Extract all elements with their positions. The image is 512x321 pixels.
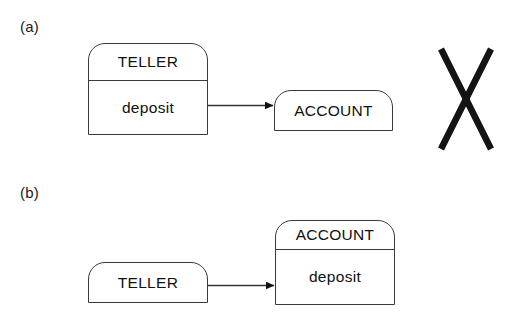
panel-label-a: (a) — [20, 18, 39, 35]
panel-a-receiver-class-box: ACCOUNT — [274, 90, 393, 131]
panel-b-receiver-operation: deposit — [276, 250, 394, 304]
panel-b-receiver-class-name: ACCOUNT — [276, 221, 394, 250]
incorrect-cross-icon — [430, 40, 502, 160]
panel-a-receiver-class-name: ACCOUNT — [275, 91, 392, 130]
panel-a-sender-operation: deposit — [89, 81, 207, 134]
panel-label-b: (b) — [20, 184, 39, 201]
figure-canvas: (a) TELLER deposit ACCOUNT (b) TELLER AC… — [0, 0, 512, 321]
panel-a-sender-class-box: TELLER deposit — [88, 43, 208, 135]
panel-b-sender-class-box: TELLER — [88, 262, 208, 303]
panel-a-sender-class-name: TELLER — [89, 44, 207, 81]
panel-b-sender-class-name: TELLER — [89, 263, 207, 302]
panel-b-receiver-class-box: ACCOUNT deposit — [275, 220, 395, 305]
